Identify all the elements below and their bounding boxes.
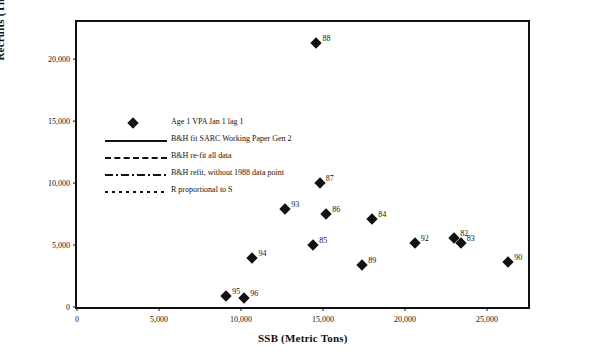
x-tick-label: 15,000	[312, 315, 334, 324]
data-point-label: 90	[514, 253, 522, 262]
legend-line-sample	[105, 174, 167, 176]
x-tick-label: 20,000	[394, 315, 416, 324]
legend-label: B&H fit SARC Working Paper Gen 2	[171, 134, 292, 143]
y-tick-label: 20,000	[48, 55, 70, 64]
data-point-label: 95	[232, 287, 240, 296]
legend-line-sample	[105, 157, 167, 159]
legend-label: Age 1 VPA Jan 1 lag 1	[171, 117, 243, 126]
chart-figure: 05,00010,00015,00020,000 05,00010,00015,…	[0, 0, 610, 358]
y-axis-title: Recruits (Thousands)	[0, 0, 6, 88]
y-axis-tick-labels: 05,00010,00015,00020,000	[40, 0, 70, 358]
x-tick-label: 0	[75, 315, 79, 324]
x-axis-title: SSB (Metric Tons)	[258, 332, 348, 344]
y-tick-label: 10,000	[48, 179, 70, 188]
legend-line-sample	[105, 140, 167, 142]
y-tick-label: 15,000	[48, 117, 70, 126]
legend-item: B&H fit SARC Working Paper Gen 2	[105, 132, 335, 149]
chart-legend: Age 1 VPA Jan 1 lag 1B&H fit SARC Workin…	[105, 115, 335, 200]
diamond-marker-icon	[127, 117, 138, 128]
legend-label: R proportional to S	[171, 185, 233, 194]
data-point-label: 96	[250, 289, 258, 298]
y-tick-label: 0	[66, 303, 70, 312]
legend-key-dash-dot	[105, 166, 167, 183]
y-tick-label: 5,000	[52, 241, 70, 250]
legend-item: R proportional to S	[105, 183, 335, 200]
data-point-label: 86	[332, 205, 340, 214]
legend-key-dotted	[105, 183, 167, 200]
data-point-label: 88	[322, 34, 330, 43]
data-point-label: 85	[319, 236, 327, 245]
x-tick-label: 10,000	[230, 315, 252, 324]
data-point-label: 92	[421, 234, 429, 243]
data-point-label: 93	[291, 200, 299, 209]
legend-label: B&H re-fit all data	[171, 151, 232, 160]
x-axis-tick-labels: 05,00010,00015,00020,00025,000	[0, 315, 610, 329]
legend-item: B&H refit, without 1988 data point	[105, 166, 335, 183]
x-tick-label: 5,000	[150, 315, 168, 324]
legend-line-sample	[105, 191, 167, 193]
legend-key-solid	[105, 132, 167, 149]
data-point-label: 94	[258, 249, 266, 258]
legend-item: B&H re-fit all data	[105, 149, 335, 166]
data-point-label: 84	[378, 210, 386, 219]
data-point-label: 89	[368, 256, 376, 265]
legend-key-diamond	[105, 115, 167, 132]
data-point-label: 83	[467, 234, 475, 243]
x-tick-label: 25,000	[476, 315, 498, 324]
legend-item: Age 1 VPA Jan 1 lag 1	[105, 115, 335, 132]
legend-key-dashed	[105, 149, 167, 166]
legend-label: B&H refit, without 1988 data point	[171, 168, 284, 177]
